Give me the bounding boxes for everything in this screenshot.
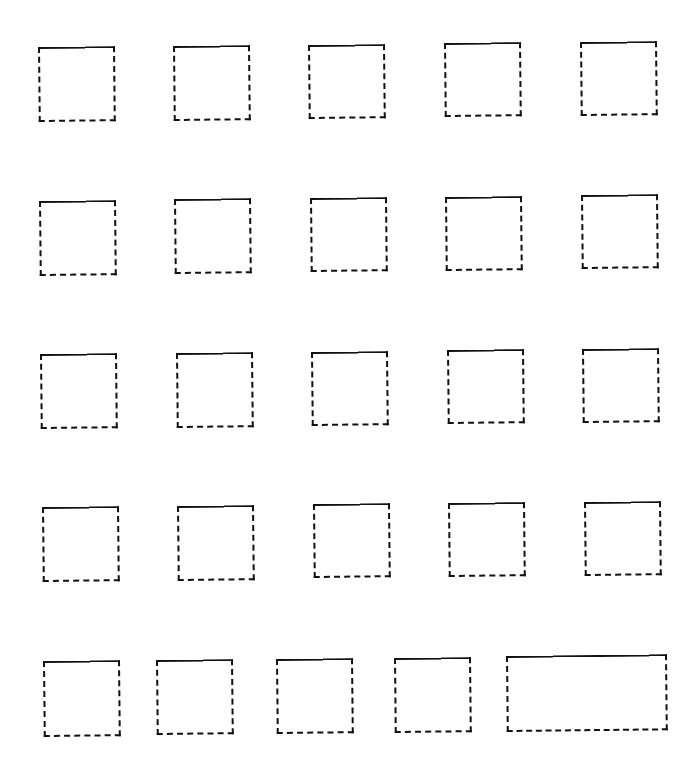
answer-box-r3-c2[interactable] (176, 352, 254, 428)
answer-box-r4-c4[interactable] (448, 502, 526, 577)
answer-box-r5-c1[interactable] (43, 660, 121, 737)
answer-box-r2-c3[interactable] (310, 197, 388, 272)
answer-box-r4-c5[interactable] (584, 501, 662, 576)
answer-box-r4-c1[interactable] (42, 506, 120, 582)
answer-box-r1-c2[interactable] (173, 45, 251, 121)
answer-box-r1-c3[interactable] (308, 44, 386, 119)
answer-box-r1-c4[interactable] (444, 42, 522, 117)
answer-box-r5-c2[interactable] (156, 659, 234, 735)
answer-box-r2-c4[interactable] (445, 196, 523, 271)
answer-box-r5-c3[interactable] (276, 658, 354, 734)
answer-box-r3-c1[interactable] (40, 353, 118, 429)
answer-box-r4-c2[interactable] (177, 505, 255, 581)
answer-box-r3-c5[interactable] (582, 348, 660, 423)
answer-box-r3-c4[interactable] (447, 349, 525, 424)
answer-box-r4-c3[interactable] (313, 503, 391, 578)
answer-box-r1-c5[interactable] (580, 41, 658, 116)
answer-box-r2-c5[interactable] (581, 194, 659, 269)
answer-box-r5-c5[interactable] (506, 654, 668, 732)
answer-box-r2-c2[interactable] (174, 198, 252, 274)
answer-box-r5-c4[interactable] (394, 657, 472, 733)
answer-box-r1-c1[interactable] (38, 46, 116, 122)
answer-box-r2-c1[interactable] (39, 200, 117, 276)
answer-box-r3-c3[interactable] (311, 351, 389, 426)
worksheet-page (0, 0, 698, 767)
